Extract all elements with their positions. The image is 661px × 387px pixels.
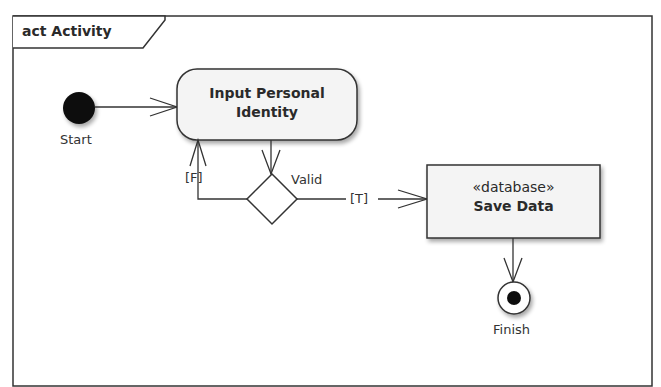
final-node[interactable]: [498, 282, 530, 314]
start-label: Start: [60, 132, 92, 147]
save-action-name: Save Data: [427, 197, 600, 216]
input-action-label: Input Personal Identity: [177, 84, 357, 122]
save-action-stereotype: «database»: [427, 178, 600, 197]
edge-input-to-decision: [262, 140, 280, 174]
decision-label: Valid: [291, 172, 322, 187]
save-action-label: «database» Save Data: [427, 178, 600, 216]
edge-save-to-finish: [504, 238, 522, 282]
finish-label: Finish: [493, 322, 530, 337]
initial-node[interactable]: [63, 92, 95, 124]
edge-start-to-input: [95, 98, 177, 116]
decision-node[interactable]: [247, 174, 297, 224]
input-action-line2: Identity: [177, 103, 357, 122]
frame-title: act Activity: [22, 23, 112, 39]
false-guard-label: [F]: [185, 170, 203, 185]
input-action-line1: Input Personal: [177, 84, 357, 103]
true-guard-label: [T]: [350, 191, 368, 206]
